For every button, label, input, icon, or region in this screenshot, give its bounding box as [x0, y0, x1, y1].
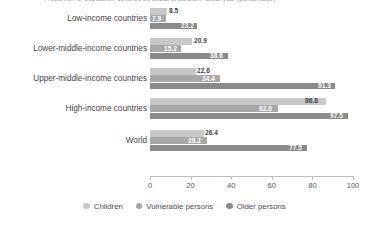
bar-value-older: 38.6 [210, 53, 223, 60]
bar-value-older: 97.5 [330, 113, 343, 120]
axis-tick [191, 176, 192, 180]
bar-children[interactable] [150, 8, 167, 15]
category-label: World [126, 136, 147, 146]
bar-group: Lower-middle-income countries 20.9 15.2 … [0, 38, 369, 60]
legend-item-children[interactable]: Children [83, 202, 123, 211]
bar-value-vulnerable: 15.2 [164, 46, 177, 53]
category-label: Lower-middle-income countries [33, 44, 147, 54]
bar-value-vulnerable: 28.2 [188, 138, 201, 145]
category-label: Low-income countries [67, 14, 147, 24]
x-axis: 0 20 40 60 80 100 [150, 176, 353, 177]
legend-label: Older persons [237, 202, 286, 211]
axis-tick [150, 176, 151, 180]
axis-tick [272, 176, 273, 180]
axis-tick-label: 100 [347, 181, 360, 190]
legend-label: Children [94, 202, 123, 211]
legend-swatch-icon [83, 203, 90, 210]
chart-legend: Children Vulnerable persons Older person… [0, 199, 369, 213]
bar-set: 26.4 28.2 77.5 [150, 130, 353, 152]
chart-container: Proportion of population covered by soci… [0, 0, 369, 226]
axis-tick-label: 80 [308, 181, 316, 190]
bar-group: High-income countries 86.8 62.8 97.5 [0, 98, 369, 120]
chart-title: Proportion of population covered by soci… [44, 0, 344, 2]
legend-item-older-persons[interactable]: Older persons [226, 202, 285, 211]
axis-tick [231, 176, 232, 180]
category-label: Upper-middle-income countries [33, 74, 147, 84]
axis-tick-label: 0 [148, 181, 152, 190]
bar-children[interactable] [150, 68, 196, 75]
bar-value-older: 77.5 [289, 145, 302, 152]
legend-item-vulnerable-persons[interactable]: Vulnerable persons [136, 202, 213, 211]
axis-tick-label: 60 [268, 181, 276, 190]
bar-value-children: 8.5 [169, 8, 178, 15]
bar-set: 8.5 7.9 23.2 [150, 8, 353, 30]
legend-swatch-icon [136, 203, 143, 210]
bar-children[interactable] [150, 38, 192, 45]
bar-value-children: 86.8 [305, 98, 318, 105]
bar-value-children: 22.6 [197, 68, 210, 75]
bar-set: 22.6 34.4 91.3 [150, 68, 353, 90]
bar-older[interactable] [150, 83, 335, 90]
legend-swatch-icon [226, 203, 233, 210]
axis-tick-label: 40 [227, 181, 235, 190]
bar-value-children: 26.4 [205, 130, 218, 137]
bar-set: 20.9 15.2 38.6 [150, 38, 353, 60]
bar-older[interactable] [150, 113, 348, 120]
legend-label: Vulnerable persons [146, 202, 213, 211]
axis-tick [353, 176, 354, 180]
bar-older[interactable] [150, 145, 307, 152]
bar-value-vulnerable: 34.4 [202, 76, 215, 83]
bar-value-older: 23.2 [181, 23, 194, 30]
axis-tick [312, 176, 313, 180]
bar-value-older: 91.3 [318, 83, 331, 90]
bar-children[interactable] [150, 130, 204, 137]
axis-tick-label: 20 [186, 181, 194, 190]
bar-value-vulnerable: 62.8 [259, 106, 272, 113]
plot-area: Low-income countries 8.5 7.9 23.2 Lower-… [0, 8, 369, 176]
bar-group: World 26.4 28.2 77.5 [0, 130, 369, 152]
category-label: High-income countries [66, 104, 147, 114]
bar-group: Low-income countries 8.5 7.9 23.2 [0, 8, 369, 30]
bar-value-children: 20.9 [194, 38, 207, 45]
bar-set: 86.8 62.8 97.5 [150, 98, 353, 120]
bar-value-vulnerable: 7.9 [152, 16, 161, 23]
bar-group: Upper-middle-income countries 22.6 34.4 … [0, 68, 369, 90]
bar-children[interactable] [150, 98, 326, 105]
